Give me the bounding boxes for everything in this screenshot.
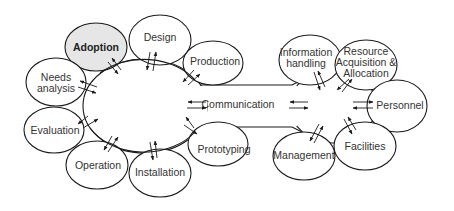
communication-label: Communication <box>202 98 275 110</box>
management-label: Management <box>273 149 334 161</box>
node-installation[interactable]: Installation <box>129 149 191 197</box>
node-design[interactable]: Design <box>129 15 191 65</box>
personnel-label: Personnel <box>376 99 423 111</box>
node-needs-analysis[interactable]: Needs analysis <box>26 58 86 106</box>
needs-analysis-label-line2: analysis <box>37 82 75 94</box>
evaluation-label: Evaluation <box>30 124 79 136</box>
node-prototyping[interactable]: Prototyping <box>188 122 251 166</box>
node-evaluation[interactable]: Evaluation <box>24 107 84 153</box>
facilities-label: Facilities <box>345 140 386 152</box>
diagram-canvas: Adoption Design Production Needs analysi… <box>0 0 454 211</box>
information-handling-label-line2: handling <box>286 57 326 69</box>
node-production[interactable]: Production <box>183 41 243 85</box>
resource-label-line3: Allocation <box>343 67 389 79</box>
adoption-label: Adoption <box>73 41 119 53</box>
node-management[interactable]: Management <box>273 132 335 180</box>
installation-label: Installation <box>135 166 185 178</box>
prototyping-label: Prototyping <box>197 143 250 155</box>
design-label: Design <box>144 31 177 43</box>
production-label: Production <box>190 55 240 67</box>
node-information-handling[interactable]: Information handling <box>279 35 341 85</box>
operation-label: Operation <box>75 159 121 171</box>
node-facilities[interactable]: Facilities <box>334 122 396 170</box>
